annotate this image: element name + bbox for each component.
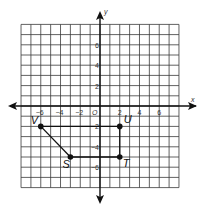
- x-tick-label: 6: [157, 109, 161, 116]
- points: VUTS: [31, 113, 132, 170]
- point-label-s: S: [62, 158, 70, 170]
- axes: x y O: [8, 8, 197, 204]
- y-axis-label: y: [103, 8, 108, 16]
- coordinate-grid-figure: x y O −6−4−2246642−2−4−6 VUTS: [0, 0, 204, 213]
- point-u-icon: [117, 124, 123, 130]
- point-v-icon: [38, 124, 44, 130]
- segment-sv: [41, 126, 71, 157]
- x-tick-label: 4: [137, 109, 141, 116]
- origin-label: O: [92, 109, 98, 116]
- y-tick-label: −6: [91, 164, 99, 171]
- y-tick-label: 6: [95, 42, 99, 49]
- x-tick-label: 2: [118, 109, 122, 116]
- x-tick-label: −2: [75, 109, 83, 116]
- point-label-u: U: [124, 113, 132, 125]
- y-tick-label: −4: [91, 144, 99, 151]
- point-t-icon: [117, 154, 123, 160]
- y-tick-label: 4: [95, 62, 99, 69]
- x-axis-label: x: [190, 96, 195, 103]
- x-tick-label: −4: [56, 109, 64, 116]
- y-tick-label: 2: [95, 83, 99, 90]
